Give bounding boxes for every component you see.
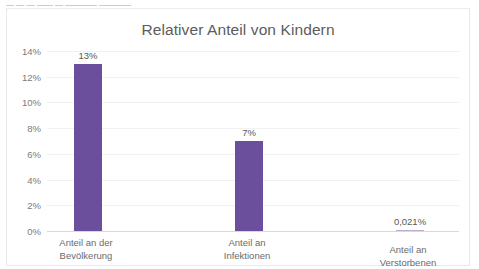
bar-verstorbene[interactable]: 0,021% xyxy=(396,230,424,231)
bar-slot-bevoelkerung: 13% xyxy=(74,51,102,231)
chart-screenshot: — — — —— — ———— ———— Relativer Anteil vo… xyxy=(0,0,479,269)
category-label-verstorbene: Anteil an Verstorbenen xyxy=(342,244,474,269)
ytick-label-10: 10% xyxy=(22,97,41,108)
ytick-label-12: 12% xyxy=(22,71,41,82)
category-label-line-1: Anteil an der xyxy=(20,237,152,250)
chart-frame: Relativer Anteil von Kindern 14% 12% 10%… xyxy=(6,8,470,266)
ytick-label-14: 14% xyxy=(22,46,41,57)
clipped-header-text: — — — —— — ———— ———— xyxy=(6,0,206,6)
category-label-infektionen: Anteil an Infektionen xyxy=(181,237,313,262)
category-label-line-2: Infektionen xyxy=(181,250,313,263)
bar-value-bevoelkerung: 13% xyxy=(50,50,126,61)
bar-infektionen[interactable]: 7% xyxy=(235,141,263,231)
ytick-label-0: 0% xyxy=(27,226,41,237)
category-label-line-1: Anteil an xyxy=(342,244,474,257)
gridline-0-axis: 0% xyxy=(47,231,459,232)
category-label-line-2: Verstorbenen xyxy=(342,257,474,269)
category-label-bevoelkerung: Anteil an der Bevölkerung xyxy=(20,237,152,262)
category-label-line-1: Anteil an xyxy=(181,237,313,250)
bar-slot-infektionen: 7% xyxy=(235,51,263,231)
bar-slot-verstorbene: 0,021% xyxy=(396,51,424,231)
ytick-label-4: 4% xyxy=(27,174,41,185)
plot-area: 14% 12% 10% 8% 6% 4% 2% 0% xyxy=(47,51,459,231)
ytick-label-2: 2% xyxy=(27,200,41,211)
ytick-label-6: 6% xyxy=(27,148,41,159)
bar-value-verstorbene: 0,021% xyxy=(372,216,448,227)
ytick-label-8: 8% xyxy=(27,123,41,134)
category-label-line-2: Bevölkerung xyxy=(20,250,152,263)
bar-value-infektionen: 7% xyxy=(211,127,287,138)
bar-bevoelkerung[interactable]: 13% xyxy=(74,64,102,231)
chart-title: Relativer Anteil von Kindern xyxy=(7,21,469,39)
